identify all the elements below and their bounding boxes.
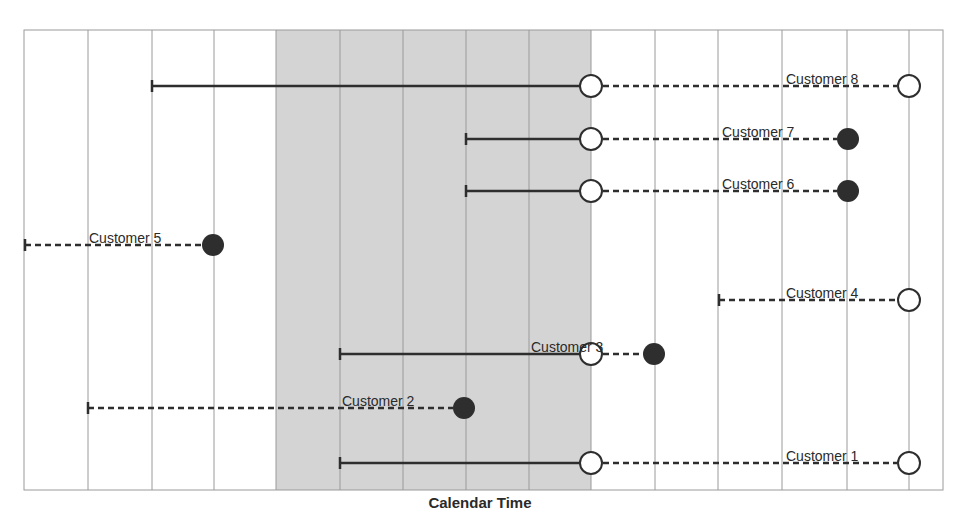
event-marker-icon	[643, 343, 665, 365]
event-marker-icon	[202, 234, 224, 256]
window-end-marker-icon	[580, 75, 602, 97]
censored-marker-icon	[898, 452, 920, 474]
censored-marker-icon	[898, 289, 920, 311]
window-end-marker-icon	[580, 180, 602, 202]
event-marker-icon	[453, 397, 475, 419]
window-end-marker-icon	[580, 452, 602, 474]
customer-6-label: Customer 6	[722, 176, 795, 192]
event-marker-icon	[837, 128, 859, 150]
x-axis-title: Calendar Time	[380, 494, 580, 511]
customer-1-label: Customer 1	[786, 448, 859, 464]
customer-8-label: Customer 8	[786, 71, 859, 87]
customer-7-label: Customer 7	[722, 124, 795, 140]
customer-timeline-diagram: Customer 8 Customer 7 Customer 6 Custome…	[0, 0, 974, 523]
customer-3-label: Customer 3	[531, 339, 604, 355]
customer-4-label: Customer 4	[786, 285, 859, 301]
event-marker-icon	[837, 180, 859, 202]
observation-window	[276, 30, 591, 490]
censored-marker-icon	[898, 75, 920, 97]
customer-5-label: Customer 5	[89, 230, 162, 246]
window-end-marker-icon	[580, 128, 602, 150]
customer-2-label: Customer 2	[342, 393, 415, 409]
